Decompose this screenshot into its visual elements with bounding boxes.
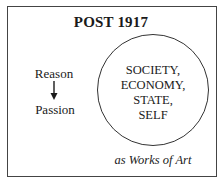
caption: as Works of Art [97, 153, 209, 168]
circle-text: SOCIETY, ECONOMY, STATE, SELF [97, 63, 209, 123]
down-arrow-icon [48, 81, 60, 101]
circle-line-self: SELF [97, 108, 209, 123]
circle-line-economy: ECONOMY, [97, 78, 209, 93]
circle-line-state: STATE, [97, 93, 209, 108]
passion-label: Passion [30, 102, 80, 118]
diagram-title: POST 1917 [0, 14, 222, 31]
circle-line-society: SOCIETY, [97, 63, 209, 78]
reason-label: Reason [34, 66, 74, 82]
